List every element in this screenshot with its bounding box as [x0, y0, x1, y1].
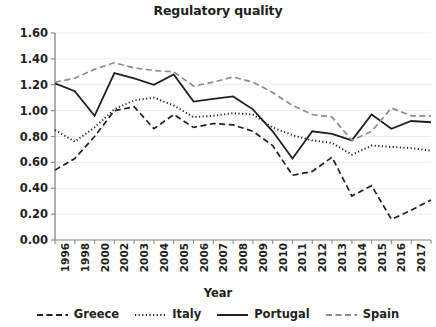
dashed-line-swatch [326, 310, 357, 320]
y-tick-label: 1.20 [6, 80, 48, 92]
plot-canvas [55, 33, 431, 240]
regulatory-quality-chart: Regulatory quality 1.601.401.201.000.800… [0, 0, 436, 327]
x-tick-label: 1998 [80, 243, 91, 272]
y-tick-label: 0.00 [6, 235, 48, 247]
legend-item-greece[interactable]: Greece [37, 309, 119, 321]
chart-title: Regulatory quality [0, 3, 436, 18]
legend-label: Greece [74, 309, 119, 321]
x-tick-label: 2014 [357, 243, 368, 272]
y-tick-label: 0.80 [6, 132, 48, 144]
x-tick-label: 2007 [218, 243, 229, 272]
x-tick-label: 2017 [416, 243, 427, 272]
x-tick-label: 2009 [258, 243, 269, 272]
legend-label: Italy [172, 309, 201, 321]
x-axis-title: Year [0, 286, 436, 300]
chart-legend: GreeceItalyPortugalSpain [0, 304, 436, 326]
legend-item-portugal[interactable]: Portugal [217, 309, 310, 321]
legend-label: Spain [363, 309, 399, 321]
solid-line-swatch [217, 310, 248, 320]
x-tick-label: 2000 [100, 243, 111, 272]
series-line-greece [55, 107, 431, 220]
x-tick-label: 2010 [278, 243, 289, 272]
x-tick-label: 2013 [337, 243, 348, 272]
y-axis-tick-labels: 1.601.401.201.000.800.600.400.200.00 [0, 33, 48, 240]
x-tick-label: 2008 [238, 243, 249, 272]
legend-item-italy[interactable]: Italy [135, 309, 201, 321]
x-tick-label: 2002 [119, 243, 130, 272]
x-tick-label: 2005 [179, 243, 190, 272]
legend-label: Portugal [254, 309, 310, 321]
x-tick-label: 2006 [199, 243, 210, 272]
y-tick-label: 0.20 [6, 209, 48, 221]
x-tick-label: 2016 [396, 243, 407, 272]
plot-area [55, 33, 431, 240]
series-line-italy [55, 98, 431, 155]
y-tick-label: 1.00 [6, 106, 48, 118]
x-tick-label: 2003 [139, 243, 150, 272]
y-tick-label: 0.40 [6, 183, 48, 195]
x-tick-label: 2004 [159, 243, 170, 272]
x-tick-label: 2011 [297, 243, 308, 272]
y-tick-label: 1.40 [6, 54, 48, 66]
legend-item-spain[interactable]: Spain [326, 309, 399, 321]
x-tick-label: 1996 [60, 243, 71, 272]
dashed-line-swatch [37, 310, 68, 320]
x-tick-label: 2015 [377, 243, 388, 272]
x-tick-label: 2012 [317, 243, 328, 272]
dotted-line-swatch [135, 310, 166, 320]
y-tick-label: 1.60 [6, 28, 48, 40]
y-tick-label: 0.60 [6, 157, 48, 169]
